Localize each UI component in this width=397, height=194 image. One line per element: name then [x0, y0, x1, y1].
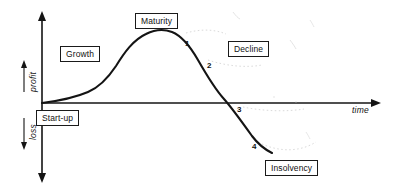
x-axis-arrow-right-icon: [371, 99, 381, 107]
loss-direction-arrow-icon: [21, 142, 27, 150]
stage-label-growth-text: Growth: [66, 49, 94, 59]
stage-label-start-up: Start-up: [36, 110, 79, 126]
stage-label-insolvency-text: Insolvency: [271, 163, 312, 173]
business-life-cycle-figure: Start-up Growth Maturity Decline Insolve…: [0, 0, 397, 194]
y-axis-arrow-up-icon: [38, 11, 46, 21]
y-axis-arrow-down-icon: [38, 173, 46, 183]
y-axis-label-loss: loss: [28, 124, 38, 140]
x-axis-label: time: [352, 105, 369, 115]
curve-canvas: [0, 0, 397, 194]
stage-label-maturity-text: Maturity: [141, 16, 172, 26]
profit-direction-arrow-icon: [21, 60, 27, 68]
curve-point-2: 2: [207, 61, 211, 70]
y-axis-label-profit: profit: [28, 72, 38, 92]
curve-point-4: 4: [252, 142, 256, 151]
scan-artifacts: [186, 12, 316, 150]
curve-point-3: 3: [237, 105, 241, 114]
stage-label-maturity: Maturity: [135, 13, 178, 29]
stage-label-insolvency: Insolvency: [265, 160, 318, 176]
stage-label-decline-text: Decline: [234, 44, 263, 54]
stage-label-start-up-text: Start-up: [42, 113, 73, 123]
curve-point-1: 1: [185, 39, 189, 48]
stage-label-growth: Growth: [60, 46, 100, 62]
stage-label-decline: Decline: [228, 41, 269, 57]
